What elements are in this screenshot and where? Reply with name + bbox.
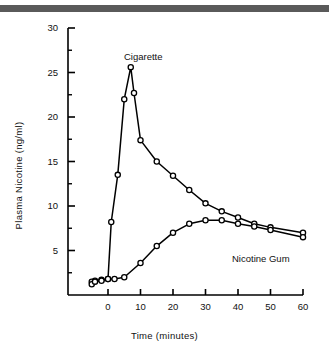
y-tick-label: 25 (32, 67, 58, 78)
y-tick-label: 10 (32, 200, 58, 211)
x-tick-label: 10 (129, 301, 153, 312)
data-point-marker (109, 219, 114, 224)
x-tick-label: 20 (161, 301, 185, 312)
x-tick-label: 60 (291, 301, 315, 312)
y-tick-label: 5 (32, 245, 58, 256)
chart-figure: Plasma Nicotine (ng/ml) Time (minutes) C… (0, 0, 329, 355)
data-point-marker (300, 235, 305, 240)
x-tick-label: 40 (226, 301, 250, 312)
y-tick-label: 15 (32, 156, 58, 167)
data-point-marker (138, 138, 143, 143)
data-point-marker (252, 224, 257, 229)
data-point-marker (219, 218, 224, 223)
data-point-marker (203, 218, 208, 223)
data-point-marker (92, 279, 97, 284)
y-tick-label: 30 (32, 22, 58, 33)
data-point-marker (122, 97, 127, 102)
data-point-marker (187, 187, 192, 192)
data-point-marker (235, 215, 240, 220)
data-point-marker (112, 276, 117, 281)
data-point-marker (154, 159, 159, 164)
x-tick-label: 50 (259, 301, 283, 312)
x-tick-label: 30 (194, 301, 218, 312)
data-point-marker (235, 221, 240, 226)
data-point-marker (138, 260, 143, 265)
data-point-marker (154, 243, 159, 248)
data-point-marker (115, 172, 120, 177)
data-point-marker (131, 90, 136, 95)
series-label-nicotine-gum: Nicotine Gum (232, 253, 290, 264)
data-point-marker (170, 230, 175, 235)
x-axis-title: Time (minutes) (0, 330, 329, 341)
data-point-marker (170, 173, 175, 178)
data-point-marker (105, 276, 110, 281)
data-point-marker (122, 275, 127, 280)
data-point-marker (128, 65, 133, 70)
x-tick-label: 0 (96, 301, 120, 312)
y-axis-title: Plasma Nicotine (ng/ml) (13, 96, 24, 256)
data-point-marker (187, 221, 192, 226)
data-point-marker (268, 227, 273, 232)
data-point-marker (99, 278, 104, 283)
y-tick-label: 20 (32, 111, 58, 122)
series-label-cigarette: Cigarette (124, 51, 163, 62)
data-point-marker (219, 209, 224, 214)
data-point-marker (203, 201, 208, 206)
